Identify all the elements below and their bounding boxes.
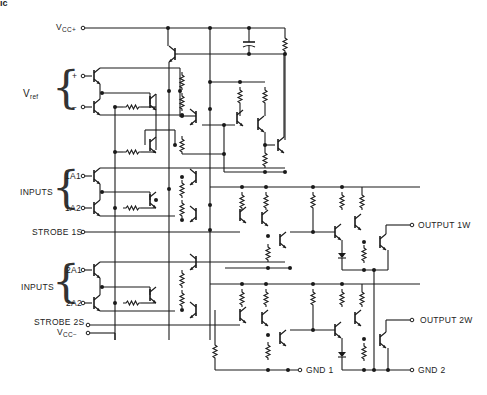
input-1a2-label: 1A2 (65, 204, 81, 213)
channel1-output-stage (210, 185, 420, 370)
strobe-2s-label: STROBE 2S (34, 318, 84, 327)
level-shift-stage-1 (180, 54, 287, 174)
channel2-output-stage (210, 282, 420, 372)
input-2a2-label: 2A2 (66, 299, 82, 308)
vcc-plus-label: VCC+ (56, 23, 76, 34)
output-1w-label: OUTPUT 1W (418, 221, 471, 230)
vref-plus-label: + (72, 72, 77, 81)
strobe-1s-label: STROBE 1S (32, 228, 82, 237)
channel1-inputs-label: INPUTS (20, 188, 53, 197)
input-1a1-label: 1A1 (65, 172, 81, 181)
vref-minus-label: − (72, 103, 77, 112)
channel2-inputs-label: INPUTS (21, 283, 54, 292)
gnd-2-label: GND 2 (418, 366, 445, 375)
vcc-minus-label: VCC− (57, 328, 77, 339)
input-2a1-label: 2A1 (66, 266, 82, 275)
channel1-input-stage (81, 168, 285, 234)
channel2-input-stage (81, 254, 285, 340)
vref-label: Vref (23, 89, 38, 101)
gnd-1-label: GND 1 (306, 366, 333, 375)
output-2w-label: OUTPUT 2W (420, 316, 473, 325)
vcc-plus-rail (81, 26, 287, 340)
